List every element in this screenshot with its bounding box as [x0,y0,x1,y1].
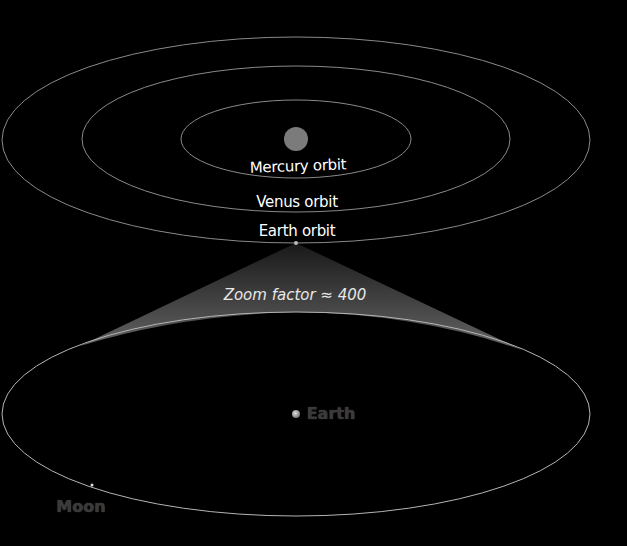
zoom-factor-label: Zoom factor ≈ 400 [224,286,367,304]
moon-icon [91,484,94,487]
orbit-zoom-diagram: Mercury orbit Venus orbit Earth orbit Zo… [0,0,627,546]
earth-icon [292,410,300,418]
moon-label: Moon [56,497,105,516]
diagram-canvas [0,0,627,546]
sun-icon [284,127,308,151]
mercury-orbit-label: Mercury orbit [249,155,346,176]
venus-orbit-label: Venus orbit [256,193,338,211]
earth-orbit-label: Earth orbit [259,222,336,240]
earth-label: Earth [307,404,356,423]
earth-dot-icon [294,241,298,245]
